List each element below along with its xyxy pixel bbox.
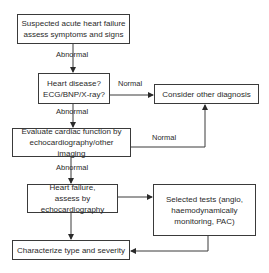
node-selected-tests: Selected tests (angio, haemodynamically … bbox=[153, 184, 256, 236]
node-evaluate-cardiac-function: Evaluate cardiac function by echocardiog… bbox=[12, 128, 131, 157]
node-characterize-type-severity: Characterize type and severity bbox=[12, 240, 130, 260]
edge-label-normal-1: Normal bbox=[118, 79, 142, 88]
edge-label-abnormal-1: Abnormal bbox=[56, 50, 88, 59]
node-consider-other-diagnosis: Consider other diagnosis bbox=[154, 84, 259, 104]
edge-label-normal-2: Normal bbox=[152, 133, 176, 142]
edge-label-abnormal-2: Abnormal bbox=[56, 107, 88, 116]
node-heart-failure-assess: Heart failure, assess by echocardiograph… bbox=[27, 184, 118, 213]
node-suspected-acute-heart-failure: Suspected acute heart failure assess sym… bbox=[17, 14, 130, 44]
node-heart-disease: Heart disease? ECG/BNP/X-ray? bbox=[38, 73, 110, 104]
edge-label-abnormal-3: Abnormal bbox=[56, 163, 88, 172]
